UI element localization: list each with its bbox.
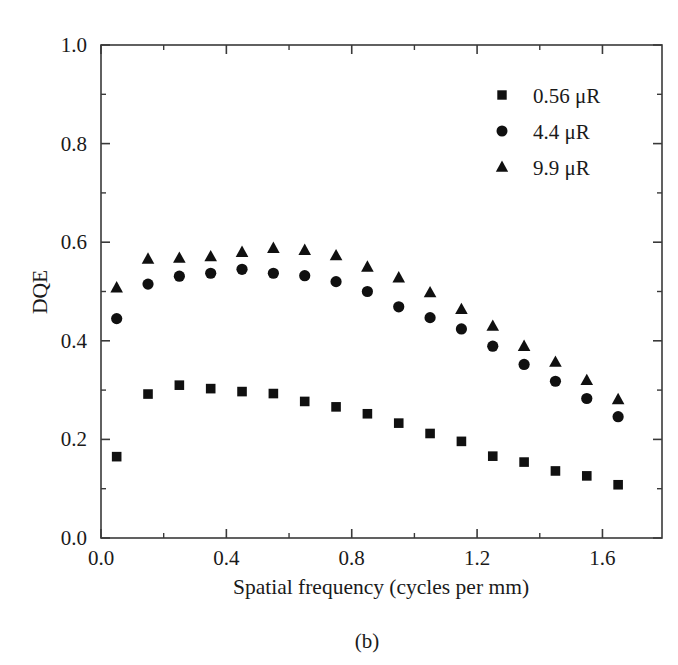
point-s2-4: [236, 245, 249, 256]
point-s2-3: [204, 250, 217, 261]
legend: 0.56 μR4.4 μR9.9 μR: [496, 84, 600, 180]
dqe-scatter-plot: 0.00.40.81.21.6 0.00.20.40.60.81.0 0.56 …: [0, 0, 678, 665]
data-markers: [110, 242, 624, 490]
point-s1-8: [362, 286, 373, 297]
x-tick-label-4: 1.6: [589, 546, 615, 570]
point-s0-14: [551, 466, 561, 476]
point-s2-2: [173, 251, 186, 262]
point-s2-11: [455, 303, 468, 314]
point-s1-2: [174, 271, 185, 282]
legend-marker-0: [497, 90, 506, 99]
point-s2-6: [298, 243, 311, 254]
point-s0-12: [488, 451, 498, 461]
y-tick-label-5: 1.0: [61, 33, 87, 57]
y-tick-label-4: 0.8: [61, 132, 87, 156]
y-tick-label-0: 0.0: [61, 526, 87, 550]
point-s2-14: [549, 355, 562, 366]
point-s1-0: [111, 313, 122, 324]
point-s2-10: [424, 286, 437, 297]
y-tick-label-2: 0.4: [61, 329, 88, 353]
point-s1-12: [487, 341, 498, 352]
point-s2-9: [392, 271, 405, 282]
point-s1-6: [299, 270, 310, 281]
y-axis-title: DQE: [28, 270, 52, 314]
x-tick-label-1: 0.4: [213, 546, 240, 570]
axis-ticks: [101, 45, 662, 538]
point-s2-16: [612, 393, 625, 404]
point-s0-9: [394, 418, 404, 428]
point-s1-7: [330, 276, 341, 287]
point-s0-4: [237, 387, 247, 397]
point-s1-9: [393, 301, 404, 312]
point-s2-12: [486, 319, 499, 330]
y-tick-label-3: 0.6: [61, 230, 87, 254]
plot-frame: [101, 45, 662, 538]
point-s1-13: [519, 359, 530, 370]
series-0: [112, 380, 623, 489]
x-tick-label-3: 1.2: [464, 546, 490, 570]
point-s1-5: [268, 268, 279, 279]
point-s1-14: [550, 376, 561, 387]
point-s0-13: [519, 457, 529, 467]
x-axis-tick-labels: 0.00.40.81.21.6: [88, 546, 616, 570]
point-s1-16: [613, 411, 624, 422]
point-s0-15: [582, 471, 592, 481]
point-s2-5: [267, 242, 280, 253]
point-s0-0: [112, 452, 122, 462]
point-s2-7: [330, 249, 343, 260]
x-tick-label-0: 0.0: [88, 546, 114, 570]
y-tick-label-1: 0.2: [61, 427, 87, 451]
point-s2-15: [580, 374, 593, 385]
series-2: [110, 242, 624, 405]
figure-caption: (b): [355, 629, 380, 653]
point-s1-10: [424, 312, 435, 323]
point-s0-6: [300, 397, 310, 407]
point-s0-5: [269, 389, 279, 399]
point-s1-11: [456, 323, 467, 334]
legend-label-2: 9.9 μR: [533, 156, 590, 180]
x-tick-label-2: 0.8: [339, 546, 365, 570]
point-s2-8: [361, 260, 374, 271]
point-s0-7: [331, 402, 341, 412]
y-axis-tick-labels: 0.00.20.40.60.81.0: [61, 33, 88, 550]
point-s0-2: [175, 380, 185, 390]
legend-label-0: 0.56 μR: [533, 84, 600, 108]
point-s2-1: [142, 252, 155, 263]
point-s1-15: [581, 393, 592, 404]
legend-marker-2: [496, 161, 508, 172]
x-axis-title: Spatial frequency (cycles per mm): [233, 575, 529, 599]
point-s0-3: [206, 384, 216, 394]
point-s0-10: [425, 429, 435, 439]
point-s2-13: [518, 340, 531, 351]
plot-axes: [101, 45, 662, 538]
series-1: [111, 264, 624, 423]
point-s0-1: [143, 389, 153, 399]
point-s0-8: [363, 409, 373, 419]
point-s0-16: [613, 480, 623, 490]
point-s1-1: [142, 279, 153, 290]
point-s1-4: [236, 264, 247, 275]
legend-marker-1: [497, 126, 508, 137]
point-s2-0: [110, 281, 123, 292]
point-s0-11: [457, 437, 467, 447]
figure-container: 0.00.40.81.21.6 0.00.20.40.60.81.0 0.56 …: [0, 0, 678, 665]
point-s1-3: [205, 268, 216, 279]
legend-label-1: 4.4 μR: [533, 120, 590, 144]
